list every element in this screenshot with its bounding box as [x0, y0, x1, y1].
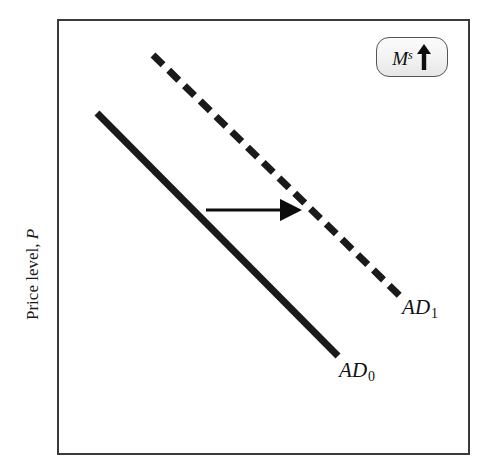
ad1-label-text: AD: [402, 295, 430, 319]
money-supply-badge: Ms: [376, 37, 448, 77]
y-axis-label-variable: P: [23, 229, 42, 239]
ad0-label-subscript: 0: [368, 369, 375, 384]
ad0-curve-label: AD0: [339, 358, 375, 383]
money-supply-variable: M: [392, 48, 408, 69]
up-arrow-icon: [416, 44, 432, 70]
ad0-label-text: AD: [339, 358, 367, 382]
y-axis-label-prefix: Price level,: [23, 239, 42, 320]
y-axis-label: Price level, P: [20, 140, 46, 320]
ad1-curve-label: AD1: [402, 295, 438, 320]
plot-frame: [57, 19, 470, 455]
ad1-label-subscript: 1: [431, 306, 438, 321]
money-supply-superscript: s: [408, 48, 413, 62]
money-supply-label: Ms: [392, 48, 413, 68]
ad-shift-figure: Price level, P AD0 AD1 Ms: [0, 0, 487, 474]
